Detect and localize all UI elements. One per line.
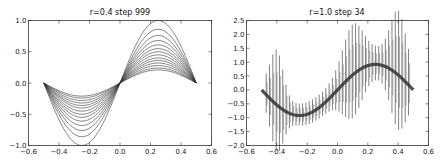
curve-line — [44, 70, 197, 96]
x-tick-label: 0.0 — [114, 148, 125, 156]
y-tick-label: 1.5 — [233, 45, 244, 53]
right-chart-title: r=1.0 step 34 — [309, 8, 364, 17]
right-chart-lines — [262, 11, 414, 151]
left-chart: r=0.4 step 999 −0.6−0.4−0.20.00.20.40.6 … — [10, 8, 218, 156]
x-tick-label: 0.4 — [393, 148, 405, 156]
y-tick-label: 0.0 — [15, 80, 26, 88]
left-chart-lines — [44, 21, 197, 146]
y-tick-label: −2.0 — [228, 142, 245, 150]
y-tick-label: −1.0 — [228, 114, 245, 122]
y-tick-label: 0.0 — [233, 86, 244, 94]
x-tick-label: −0.4 — [51, 148, 69, 156]
x-tick-label: 0.4 — [175, 148, 187, 156]
chart-canvas: r=0.4 step 999 −0.6−0.4−0.20.00.20.40.6 … — [0, 0, 443, 163]
y-tick-label: −1.5 — [228, 128, 245, 136]
y-tick-label: −1.0 — [10, 142, 27, 150]
x-tick-label: 0.6 — [206, 148, 218, 156]
y-tick-label: 2.0 — [233, 31, 244, 39]
x-tick-label: −0.4 — [268, 148, 286, 156]
left-y-axis: −1.0−0.50.00.51.0 — [10, 17, 212, 150]
left-chart-title: r=0.4 step 999 — [90, 8, 150, 17]
x-tick-label: 0.2 — [362, 148, 373, 156]
y-tick-label: 1.0 — [233, 59, 244, 67]
y-tick-label: 0.5 — [15, 48, 26, 56]
y-tick-label: −0.5 — [10, 111, 27, 119]
y-tick-label: −0.5 — [228, 100, 245, 108]
x-tick-label: 0.0 — [332, 148, 343, 156]
y-tick-label: 1.0 — [15, 17, 26, 25]
x-tick-label: −0.2 — [299, 148, 316, 156]
y-tick-label: 0.5 — [233, 73, 244, 81]
right-chart: r=1.0 step 34 −0.6−0.4−0.20.00.20.40.6 −… — [228, 8, 435, 156]
x-tick-label: −0.2 — [81, 148, 98, 156]
mean-curve — [262, 64, 414, 115]
x-tick-label: 0.2 — [145, 148, 156, 156]
x-tick-label: 0.6 — [423, 148, 435, 156]
y-tick-label: 2.5 — [233, 17, 244, 25]
